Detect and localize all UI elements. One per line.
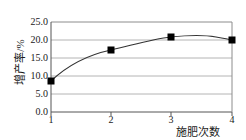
data-point-marker	[48, 78, 55, 85]
x-tick-label: 2	[101, 115, 121, 125]
x-tick-label: 3	[161, 115, 181, 125]
data-point-marker	[229, 37, 236, 44]
chart-container: 增产率/% 25.0 20.0 15.0 10.0 5.0 0.0	[0, 0, 246, 140]
data-point-marker	[168, 34, 175, 41]
x-axis-title: 施肥次数	[176, 126, 220, 139]
x-tick-label: 1	[41, 115, 61, 125]
data-point-marker	[108, 47, 115, 54]
x-tick-label: 4	[222, 115, 242, 125]
data-markers	[48, 34, 236, 85]
gridlines	[51, 40, 232, 94]
